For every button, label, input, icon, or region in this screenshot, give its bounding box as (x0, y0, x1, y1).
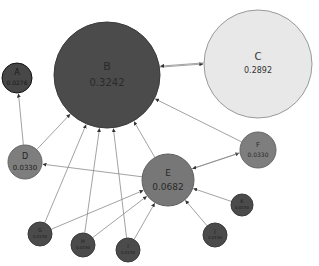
edge-e-to-b (134, 122, 155, 158)
node-label: H (81, 238, 85, 244)
edge-k-to-e (194, 189, 232, 202)
node-e[interactable]: E0.0682 (142, 154, 194, 206)
node-circle[interactable] (204, 10, 312, 118)
node-label: C (255, 51, 262, 62)
edge-d-to-b (37, 114, 70, 149)
node-circle[interactable] (54, 22, 160, 128)
node-value: 0.0330 (248, 151, 269, 158)
node-value: 0.0150 (235, 205, 249, 210)
node-value: 0.0276 (7, 79, 28, 86)
node-c[interactable]: C0.2892 (204, 10, 312, 118)
node-label: D (22, 152, 28, 161)
node-d[interactable]: D0.0330 (8, 145, 42, 179)
node-h[interactable]: H0.0150 (71, 233, 95, 257)
edge-j-to-e (186, 201, 208, 226)
node-value: 0.0150 (33, 234, 47, 239)
node-value: 0.0682 (152, 182, 184, 192)
node-label: A (14, 68, 20, 77)
node-a[interactable]: A0.0276 (2, 63, 32, 93)
node-label: E (165, 168, 171, 178)
node-label: F (256, 141, 260, 149)
nodes-layer: A0.0276B0.3242C0.2892D0.0330E0.0682F0.03… (2, 10, 312, 262)
node-circle[interactable] (142, 154, 194, 206)
edge-i-to-e (134, 203, 155, 239)
edge-h-to-b (85, 129, 100, 234)
node-circle[interactable] (8, 145, 42, 179)
pagerank-graph: A0.0276B0.3242C0.2892D0.0330E0.0682F0.03… (0, 0, 319, 266)
node-label: I (127, 243, 128, 249)
node-j[interactable]: J0.0150 (203, 223, 227, 247)
node-label: G (38, 227, 42, 233)
node-label: B (103, 60, 111, 73)
node-value: 0.3242 (90, 77, 125, 88)
node-b[interactable]: B0.3242 (54, 22, 160, 128)
edge-g-to-b (45, 125, 86, 223)
node-g[interactable]: G0.0150 (28, 222, 52, 246)
node-value: 0.0150 (121, 250, 135, 255)
node-value: 0.0150 (76, 245, 90, 250)
node-value: 0.0150 (208, 235, 222, 240)
edge-i-to-b (113, 129, 126, 239)
node-i[interactable]: I0.0150 (116, 238, 140, 262)
edge-d-to-a (19, 94, 24, 145)
node-k[interactable]: K0.0150 (231, 194, 253, 216)
node-f[interactable]: F0.0330 (240, 132, 276, 168)
node-value: 0.0330 (13, 164, 38, 172)
node-label: J (213, 228, 215, 234)
node-value: 0.2892 (244, 66, 272, 75)
edge-f-to-e (193, 153, 240, 169)
